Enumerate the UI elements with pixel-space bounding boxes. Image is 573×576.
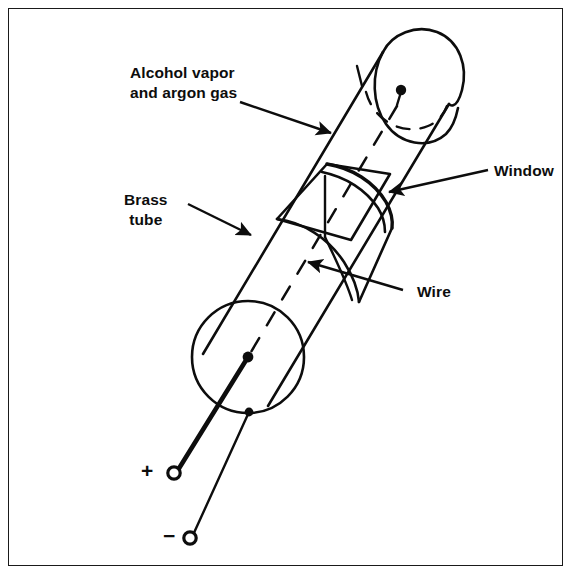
window-rim-inner-arc (322, 172, 385, 232)
terminal-leads (168, 357, 249, 544)
dome-outline-left (375, 52, 458, 143)
label-window: Window (494, 161, 554, 181)
positive-terminal-sign: + (141, 459, 153, 483)
leader-lines (188, 102, 488, 290)
dome-hidden-rim-tick (357, 66, 362, 86)
domed-end-cap (357, 29, 464, 143)
dome-outline-right (383, 29, 464, 105)
positive-lead-wire (178, 357, 248, 470)
window-right-edge (359, 228, 392, 302)
label-alcohol-vapor-argon-gas: Alcohol vapor and argon gas (130, 63, 237, 103)
negative-terminal-ring (184, 532, 196, 544)
leader-alcohol (240, 102, 331, 133)
tube-right-edge (268, 104, 449, 406)
label-wire: Wire (417, 282, 451, 302)
label-brass-tube: Brass tube (124, 190, 168, 230)
leader-brass-tube (188, 204, 251, 235)
counter-tube-diagram (0, 0, 573, 576)
negative-terminal-sign: − (163, 524, 175, 548)
positive-terminal-ring (168, 467, 180, 479)
figure-canvas: Alcohol vapor and argon gas Brass tube W… (0, 0, 573, 576)
